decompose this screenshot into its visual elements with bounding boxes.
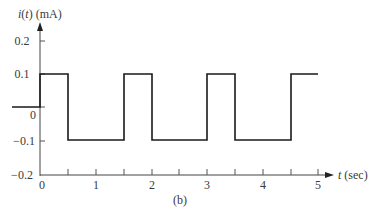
y-label-unit: ) (mA) — [29, 7, 62, 21]
chart-figure: 0.2 0.1 0 −0.1 −0.2 0 1 2 3 4 5 i(t) (mA… — [0, 0, 382, 217]
x-tick-label: 5 — [315, 178, 321, 192]
current-waveform — [12, 74, 318, 140]
x-axis-arrow-icon — [325, 172, 334, 178]
x-ticks — [68, 169, 318, 175]
x-tick-label: 0 — [39, 178, 45, 192]
y-tick-label: 0 — [30, 108, 36, 122]
x-tick-label: 4 — [260, 178, 266, 192]
y-axis-label: i(t) (mA) — [18, 7, 62, 21]
y-tick-label: −0.1 — [13, 134, 35, 148]
y-axis-arrow-icon — [37, 22, 43, 31]
y-tick-label: 0.1 — [15, 67, 30, 81]
x-tick-label: 2 — [149, 178, 155, 192]
figure-caption: (b) — [173, 193, 187, 207]
x-axis-label: t (sec) — [338, 168, 368, 182]
y-tick-label: 0.2 — [15, 34, 30, 48]
x-tick-label: 3 — [204, 178, 210, 192]
x-label-unit: (sec) — [341, 168, 367, 182]
x-tick-label: 1 — [93, 178, 99, 192]
y-tick-label: −0.2 — [11, 168, 33, 182]
